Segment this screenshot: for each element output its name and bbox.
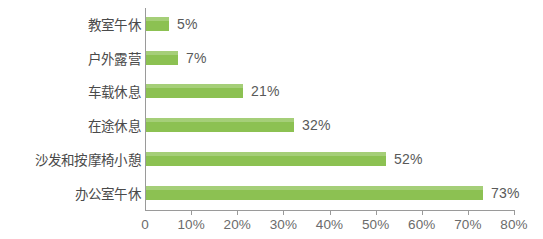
- bar-row: 户外露营7%: [0, 42, 543, 74]
- x-axis-tick: [422, 210, 423, 215]
- x-axis-tick-label: 50%: [362, 217, 389, 232]
- bar[interactable]: 21%: [146, 84, 243, 98]
- category-label: 沙发和按摩椅小憩: [35, 149, 141, 169]
- x-axis-tick-label: 80%: [500, 217, 527, 232]
- bar-value-label: 73%: [491, 185, 520, 201]
- bar-container: 21%: [146, 84, 243, 98]
- x-axis-tick-label: 20%: [224, 217, 251, 232]
- x-axis-tick: [330, 210, 331, 215]
- x-axis-tick-label: 0: [141, 217, 149, 232]
- bar-container: 5%: [146, 17, 169, 31]
- bar-row: 车载休息21%: [0, 75, 543, 107]
- bar-value-label: 52%: [394, 151, 423, 167]
- bar[interactable]: 73%: [146, 186, 483, 200]
- bar-value-label: 21%: [251, 83, 280, 99]
- bar-chart: 教室午休5%户外露营7%车载休息21%在途休息32%沙发和按摩椅小憩52%办公室…: [0, 0, 543, 239]
- x-axis-tick: [514, 210, 515, 215]
- bar-row: 办公室午休73%: [0, 177, 543, 209]
- bar[interactable]: 52%: [146, 152, 386, 166]
- bar[interactable]: 5%: [146, 17, 169, 31]
- bar-value-label: 32%: [302, 117, 331, 133]
- category-label: 车载休息: [88, 81, 141, 101]
- x-axis-tick: [191, 210, 192, 215]
- bar-container: 7%: [146, 51, 178, 65]
- category-label: 户外露营: [88, 48, 141, 68]
- bar-row: 在途休息32%: [0, 109, 543, 141]
- x-axis-tick-label: 30%: [270, 217, 297, 232]
- bar-value-label: 5%: [177, 16, 198, 32]
- x-axis-tick-label: 40%: [316, 217, 343, 232]
- x-axis-tick: [376, 210, 377, 215]
- bar-row: 教室午休5%: [0, 8, 543, 40]
- bar[interactable]: 7%: [146, 51, 178, 65]
- x-axis-tick: [237, 210, 238, 215]
- x-axis-tick-label: 70%: [454, 217, 481, 232]
- bar-row: 沙发和按摩椅小憩52%: [0, 143, 543, 175]
- bar-container: 32%: [146, 118, 294, 132]
- category-label: 教室午休: [88, 14, 141, 34]
- x-axis-tick: [283, 210, 284, 215]
- category-label: 办公室午休: [75, 183, 142, 203]
- bar-value-label: 7%: [186, 50, 207, 66]
- x-axis-tick: [468, 210, 469, 215]
- bar-container: 73%: [146, 186, 483, 200]
- x-axis-tick-label: 60%: [408, 217, 435, 232]
- bar[interactable]: 32%: [146, 118, 294, 132]
- category-label: 在途休息: [88, 115, 141, 135]
- x-axis-tick-label: 10%: [177, 217, 204, 232]
- bar-container: 52%: [146, 152, 386, 166]
